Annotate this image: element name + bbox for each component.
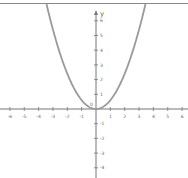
x-tick-label: 6	[181, 114, 184, 119]
y-tick-label: -1	[100, 121, 105, 126]
function-plot: y-6-5-4-3-2-1123456654321-1-2-3-40	[0, 0, 188, 178]
x-tick-label: 1	[109, 114, 112, 119]
y-axis-arrow-icon	[94, 10, 98, 15]
x-tick-label: -4	[36, 114, 41, 119]
x-tick-label: 5	[166, 114, 169, 119]
y-tick-label: 3	[100, 63, 103, 68]
x-tick-label: -6	[8, 114, 13, 119]
origin-label: 0	[90, 102, 93, 107]
x-tick-label: -1	[79, 114, 84, 119]
x-tick-label: -5	[22, 114, 27, 119]
x-tick-label: -3	[51, 114, 56, 119]
y-tick-label: 6	[100, 18, 103, 23]
x-tick-label: 3	[138, 114, 141, 119]
y-tick-label: 5	[100, 33, 103, 38]
x-tick-label: 4	[152, 114, 155, 119]
y-tick-label: -3	[100, 151, 105, 156]
y-tick-label: -4	[100, 165, 105, 170]
y-tick-label: -2	[100, 136, 105, 141]
y-tick-label: 1	[100, 92, 103, 97]
y-axis-label: y	[100, 10, 104, 18]
y-tick-label: 4	[100, 48, 103, 53]
y-tick-label: 2	[100, 77, 103, 82]
x-tick-label: -2	[65, 114, 70, 119]
x-tick-label: 2	[123, 114, 126, 119]
